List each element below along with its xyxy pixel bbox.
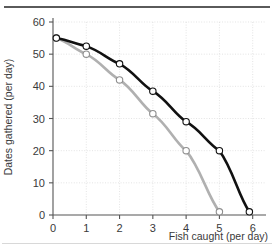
y-tick-label: 40 [33, 80, 45, 92]
data-point-marker [183, 119, 189, 125]
chart-figure: 0123456 0102030405060 Fish caught (per d… [0, 0, 274, 246]
bottom-rule [2, 243, 272, 244]
y-tick-label: 60 [33, 16, 45, 28]
data-point-marker [150, 110, 156, 116]
data-point-marker [183, 147, 189, 153]
data-point-marker [116, 77, 122, 83]
series-line-inner-frontier [56, 38, 219, 212]
x-axis-title: Fish caught (per day) [169, 230, 268, 242]
y-tick-label: 20 [33, 145, 45, 157]
x-axis-ticks [53, 215, 253, 219]
y-axis-title: Dates gathered (per day) [2, 59, 14, 176]
x-tick-label: 0 [50, 222, 56, 234]
y-tick-label: 30 [33, 113, 45, 125]
y-axis-ticks [49, 22, 53, 215]
data-point-marker [83, 43, 89, 49]
y-tick-label: 50 [33, 48, 45, 60]
data-point-marker [216, 209, 222, 215]
x-tick-label: 2 [117, 222, 123, 234]
data-point-marker [83, 51, 89, 57]
data-point-marker [116, 61, 122, 67]
x-tick-label: 3 [150, 222, 156, 234]
x-tick-label: 1 [83, 222, 89, 234]
top-rule [4, 6, 270, 8]
data-point-marker [150, 88, 156, 94]
y-tick-label: 10 [33, 177, 45, 189]
y-tick-label: 0 [39, 209, 45, 221]
production-possibility-frontier-chart: 0123456 0102030405060 Fish caught (per d… [0, 0, 274, 246]
data-point-marker [53, 35, 59, 41]
y-axis-tick-labels: 0102030405060 [33, 16, 45, 221]
data-point-marker [216, 147, 222, 153]
data-point-marker [246, 209, 252, 215]
